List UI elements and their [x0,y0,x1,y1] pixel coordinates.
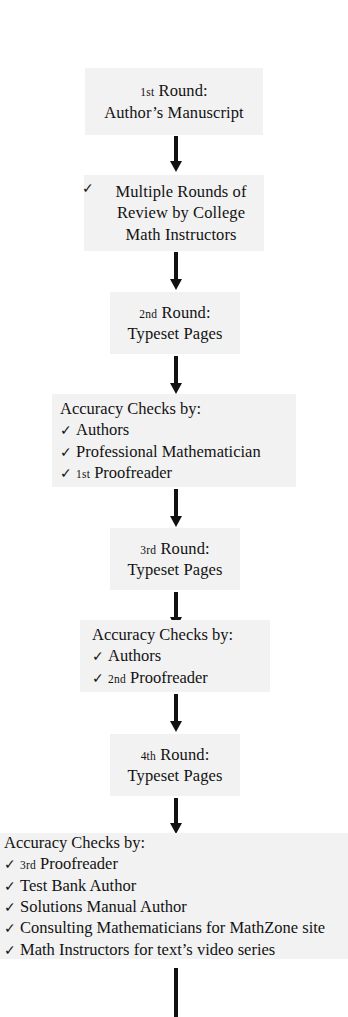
ordinal-suffix: th [147,750,156,762]
check-icon: ✓ [92,671,108,686]
arrow-2 [170,252,182,290]
arrow-head [170,721,182,732]
node-round-2-line-1: 2nd Round: [110,302,240,323]
flowchart: 1st Round: Author’s Manuscript ✓Multiple… [0,0,348,1017]
item-text: Proofreader [36,854,118,873]
item-text: Professional Mathematician [76,442,261,461]
accuracy-checks-3-item-1: ✓3rd Proofreader [4,853,348,874]
check-icon: ✓ [4,857,20,872]
arrow-stem [174,136,178,162]
node-review-line-1-text: Multiple Rounds of [115,182,246,201]
check-icon: ✓ [82,182,98,196]
arrow-7 [170,798,182,834]
item-text: Authors [108,646,161,665]
item-text: Authors [76,420,129,439]
node-round-1-line-1: 1st Round: [85,80,263,101]
accuracy-checks-1-item-3: ✓1st Proofreader [60,462,296,483]
ordinal-rest: Round: [156,539,209,558]
item-text: Math Instructors for text’s video series [20,940,275,959]
node-accuracy-checks-2: Accuracy Checks by: ✓Authors ✓2nd Proofr… [80,620,270,692]
arrow-head [170,516,182,527]
arrow-stem [174,489,178,517]
arrow-head [170,279,182,290]
ordinal-rest: Round: [154,81,207,100]
node-round-3: 3rd Round: Typeset Pages [110,528,240,590]
accuracy-checks-1-item-2: ✓Professional Mathematician [60,441,296,462]
check-icon: ✓ [60,445,76,460]
node-multiple-rounds-review: ✓Multiple Rounds of Review by College Ma… [84,175,264,251]
arrow-stem [174,798,178,824]
check-icon: ✓ [60,466,76,481]
ordinal-suffix: rd [146,544,156,556]
item-text: Test Bank Author [20,876,136,895]
ordinal-suffix: nd [145,308,157,320]
item-text: Proofreader [126,668,208,687]
arrow-6 [170,694,182,732]
ordinal-rest: Round: [157,303,210,322]
ordinal-rest: Round: [156,745,209,764]
node-round-4: 4th Round: Typeset Pages [110,734,240,796]
ordinal-suffix: st [82,468,90,480]
arrow-stem [174,968,178,1017]
item-text: Solutions Manual Author [20,897,187,916]
ordinal-suffix: nd [114,673,126,685]
arrow-head [170,161,182,172]
item-text: Consulting Mathematicians for MathZone s… [20,918,325,937]
item-text: Proofreader [90,463,172,482]
node-round-1: 1st Round: Author’s Manuscript [85,68,263,135]
accuracy-checks-2-header: Accuracy Checks by: [92,624,270,645]
check-icon: ✓ [4,943,20,958]
arrow-stem [174,356,178,384]
accuracy-checks-3-item-4: ✓Consulting Mathematicians for MathZone … [4,917,348,938]
arrow-3 [170,356,182,394]
accuracy-checks-3-header: Accuracy Checks by: [4,832,348,853]
node-review-line-3: Math Instructors [98,224,264,245]
accuracy-checks-2-item-2: ✓2nd Proofreader [92,667,270,688]
arrow-head [170,383,182,394]
node-accuracy-checks-3: Accuracy Checks by: ✓3rd Proofreader ✓Te… [0,833,348,959]
accuracy-checks-3-item-3: ✓Solutions Manual Author [4,896,348,917]
accuracy-checks-3-item-5: ✓Math Instructors for text’s video serie… [4,939,348,960]
accuracy-checks-1-item-1: ✓Authors [60,419,296,440]
node-round-2: 2nd Round: Typeset Pages [110,292,240,354]
accuracy-checks-3-item-2: ✓Test Bank Author [4,875,348,896]
check-icon: ✓ [92,649,108,664]
check-icon: ✓ [60,423,76,438]
node-round-2-line-2: Typeset Pages [110,323,240,344]
arrow-8 [170,968,182,1017]
arrow-stem [174,592,178,618]
node-round-1-line-2: Author’s Manuscript [85,102,263,123]
node-accuracy-checks-1: Accuracy Checks by: ✓Authors ✓Profession… [52,394,296,487]
check-icon: ✓ [4,921,20,936]
node-round-3-line-2: Typeset Pages [110,559,240,580]
check-icon: ✓ [4,900,20,915]
arrow-stem [174,694,178,722]
node-review-line-2: Review by College [98,202,264,223]
arrow-4 [170,489,182,527]
node-round-3-line-1: 3rd Round: [110,538,240,559]
node-round-4-line-1: 4th Round: [110,744,240,765]
accuracy-checks-1-header: Accuracy Checks by: [60,398,296,419]
accuracy-checks-2-item-1: ✓Authors [92,645,270,666]
node-review-line-1: ✓Multiple Rounds of [98,181,264,202]
arrow-1 [170,136,182,172]
ordinal-suffix: rd [26,859,36,871]
node-round-4-line-2: Typeset Pages [110,765,240,786]
check-icon: ✓ [4,879,20,894]
arrow-stem [174,252,178,280]
